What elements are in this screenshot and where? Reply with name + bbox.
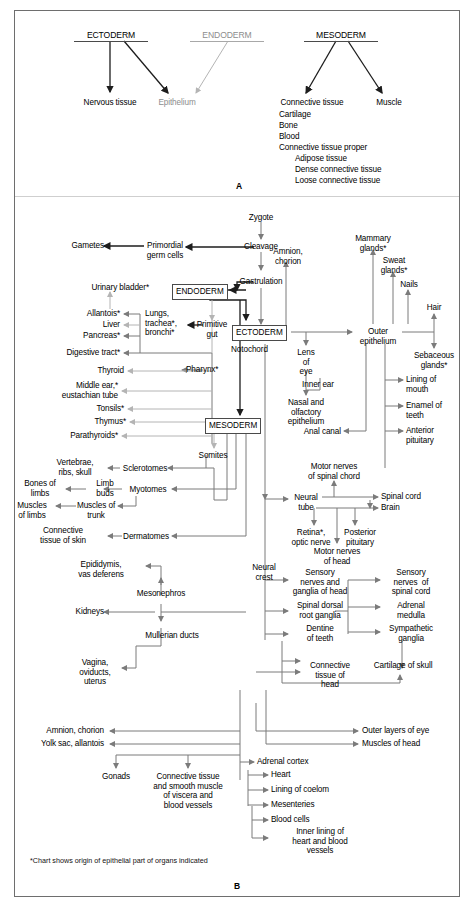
heart-node: Heart bbox=[271, 770, 291, 780]
panel-a-layer-endoderm: ENDODERM bbox=[202, 31, 251, 41]
mesonephros-node: Mesonephros bbox=[137, 589, 186, 599]
lining-of-mouth-node: Lining of mouth bbox=[406, 375, 436, 394]
panel-a-layer-ectoderm: ECTODERM bbox=[87, 31, 135, 41]
cartilage-of-skull-node: Cartilage of skull bbox=[374, 661, 433, 671]
allantois-node: Allantois* bbox=[87, 309, 120, 319]
outer-epithelium-node: Outer epithelium bbox=[360, 327, 396, 346]
primordial-germ-cells-node: Primordial germ cells bbox=[147, 241, 183, 260]
vagina-oviducts-uterus-node: Vagina, oviducts, uterus bbox=[79, 658, 110, 687]
parathyroids-node: Parathyroids* bbox=[70, 431, 118, 441]
panel-a-layer-mesoderm: MESODERM bbox=[316, 31, 366, 41]
epididymis-vas-deferens-node: Epididymis, vas deferens bbox=[78, 560, 124, 579]
dermatomes-node: Dermatomes bbox=[123, 532, 169, 542]
sebaceous-glands-node: Sebaceous glands* bbox=[414, 351, 454, 370]
gonads-node: Gonads bbox=[102, 772, 130, 782]
panel-a-ct-item-adipose-tissue: Adipose tissue bbox=[295, 154, 347, 164]
vertebrae-ribs-skull-node: Vertebrae, ribs, skull bbox=[57, 458, 94, 477]
gastrulation-node: Gastrulation bbox=[240, 277, 283, 287]
bones-of-limbs-node: Bones of limbs bbox=[24, 479, 56, 498]
chart-footnote: *Chart shows origin of epithelial part o… bbox=[30, 856, 208, 865]
ectoderm-underline bbox=[74, 41, 148, 42]
inner-ear-node: Inner ear bbox=[302, 380, 334, 390]
neural-crest-node: Neural crest bbox=[252, 563, 276, 582]
lining-of-coelom-node: Lining of coelom bbox=[271, 785, 329, 795]
digestive-tract-node: Digestive tract* bbox=[67, 348, 120, 358]
sensory-nerves-ganglia-head-node: Sensory nerves and ganglia of head bbox=[293, 568, 348, 597]
nasal-olfactory-node: Nasal and olfactory epithelium bbox=[288, 398, 324, 427]
myotomes-node: Myotomes bbox=[130, 485, 167, 495]
spinal-cord-node: Spinal cord bbox=[381, 492, 421, 502]
connective-tissue-of-head-node: Connective tissue of head bbox=[310, 661, 350, 690]
mammary-glands-node: Mammary glands* bbox=[355, 234, 391, 253]
somites-node: Somites bbox=[199, 451, 228, 461]
mesenteries-node: Mesenteries bbox=[271, 800, 315, 810]
thyroid-node: Thyroid bbox=[97, 366, 124, 376]
retina-optic-nerve-node: Retina*, optic nerve bbox=[292, 528, 331, 547]
limb-buds-node: Limb buds bbox=[96, 479, 113, 498]
anterior-pituitary-node: Anterior pituitary bbox=[406, 426, 434, 445]
yolk-sac-allantois-node: Yolk sac, allantois bbox=[41, 739, 104, 749]
panel-a-derivative-nervous-tissue: Nervous tissue bbox=[84, 98, 137, 108]
panel-a-ct-item-connective-tissue-proper: Connective tissue proper bbox=[279, 143, 367, 153]
posterior-pituitary-node: Posterior pituitary bbox=[344, 528, 376, 547]
pharynx-node: Pharynx* bbox=[186, 365, 218, 375]
sensory-nerves-spinal-cord-node: Sensory nerves of spinal cord bbox=[392, 568, 431, 597]
panel-a-ct-item-dense-connective-tissue: Dense connective tissue bbox=[295, 165, 381, 175]
tonsils-node: Tonsils* bbox=[97, 404, 124, 414]
endoderm-box: ENDODERM bbox=[172, 284, 228, 300]
panel-a-derivative-connective-tissue: Connective tissue bbox=[281, 98, 344, 108]
pancreas-node: Pancreas* bbox=[83, 331, 120, 341]
middle-ear-node: Middle ear,* eustachian tube bbox=[62, 381, 118, 400]
sclerotomes-node: Sclerotomes bbox=[123, 464, 167, 474]
neural-tube-node: Neural tube bbox=[294, 493, 318, 512]
sweat-glands-node: Sweat glands* bbox=[381, 256, 408, 275]
liver-node: Liver bbox=[103, 320, 120, 330]
nails-node: Nails bbox=[400, 280, 418, 290]
muscles-of-head-node: Muscles of head bbox=[362, 739, 420, 749]
connective-smooth-muscle-node: Connective tissue and smooth muscle of v… bbox=[153, 772, 222, 810]
endoderm-underline bbox=[190, 41, 264, 42]
gametes-node: Gametes bbox=[71, 241, 104, 251]
lens-of-eye-node: Lens of eye bbox=[297, 348, 314, 377]
primitive-gut-node: Primitive gut bbox=[197, 320, 228, 339]
outer-layers-of-eye-node: Outer layers of eye bbox=[362, 726, 429, 736]
connective-tissue-of-skin-node: Connective tissue of skin bbox=[40, 526, 86, 545]
brain-node: Brain bbox=[381, 503, 400, 513]
ectoderm-box: ECTODERM bbox=[232, 325, 287, 341]
hair-node: Hair bbox=[427, 303, 442, 313]
motor-nerves-of-head-node: Motor nerves of head bbox=[314, 547, 361, 566]
motor-nerves-spinal-chord-node: Motor nerves of spinal chord bbox=[308, 462, 360, 481]
dentine-of-teeth-node: Dentine of teeth bbox=[306, 624, 334, 643]
panel-a-ct-item-cartilage: Cartilage bbox=[279, 110, 311, 120]
kidneys-node: Kidneys bbox=[76, 607, 104, 617]
panel-a-ct-item-loose-connective-tissue: Loose connective tissue bbox=[295, 176, 380, 186]
panel-a-derivative-epithelium: Epithelium bbox=[158, 98, 195, 108]
sympathetic-ganglia-node: Sympathetic ganglia bbox=[389, 624, 433, 643]
spinal-dorsal-root-ganglia-node: Spinal dorsal root ganglia bbox=[297, 601, 343, 620]
anal-canal-node: Anal canal bbox=[304, 427, 341, 437]
mesoderm-box: MESODERM bbox=[205, 418, 261, 434]
amnion-chorion-ecto-node: Amnion, chorion bbox=[273, 247, 302, 266]
adrenal-cortex-node: Adrenal cortex bbox=[257, 757, 308, 767]
mullerian-ducts-node: Mullerian ducts bbox=[145, 631, 199, 641]
muscles-of-limbs-node: Muscles of limbs bbox=[17, 501, 46, 520]
panel-a-ct-item-bone: Bone bbox=[279, 121, 298, 131]
panel-divider bbox=[15, 196, 459, 197]
zygote-node: Zygote bbox=[249, 213, 273, 223]
inner-lining-heart-vessels-node: Inner lining of heart and blood vessels bbox=[292, 827, 347, 856]
panel-a-letter: A bbox=[236, 181, 242, 191]
notochord-node: Notochord bbox=[231, 345, 268, 355]
panel-a-derivative-muscle: Muscle bbox=[376, 98, 401, 108]
panel-b-letter: B bbox=[234, 881, 240, 891]
lungs-trachea-bronchi-node: Lungs, trachea*, bronchi* bbox=[145, 309, 177, 338]
adrenal-medulla-node: Adrenal medulla bbox=[397, 601, 425, 620]
urinary-bladder-node: Urinary bladder* bbox=[91, 283, 149, 293]
panel-a-ct-item-blood: Blood bbox=[279, 132, 299, 142]
muscles-of-trunk-node: Muscles of trunk bbox=[77, 501, 115, 520]
figure-frame bbox=[14, 10, 460, 897]
thymus-node: Thymus* bbox=[94, 417, 126, 427]
enamel-of-teeth-node: Enamel of teeth bbox=[406, 401, 442, 420]
amnion-chorion-meso-node: Amnion, chorion bbox=[46, 726, 104, 736]
mesoderm-underline bbox=[304, 41, 378, 42]
blood-cells-node: Blood cells bbox=[271, 815, 310, 825]
